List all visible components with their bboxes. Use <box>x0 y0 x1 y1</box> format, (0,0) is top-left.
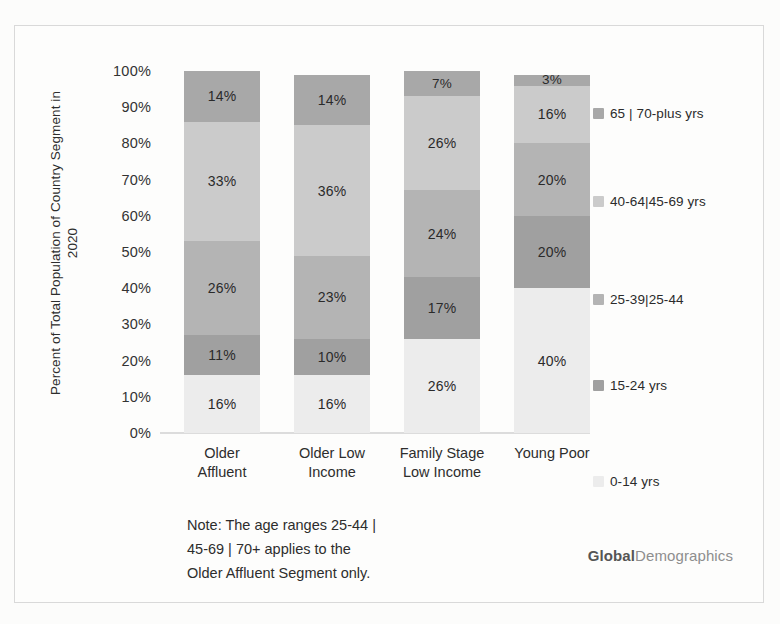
bar-segment-label: 17% <box>428 301 457 315</box>
legend-item[interactable]: 25-39|25-44 <box>593 292 684 307</box>
chart-frame: Percent of Total Population of Country S… <box>14 25 764 603</box>
legend-item[interactable]: 15-24 yrs <box>593 378 667 393</box>
legend-label: 25-39|25-44 <box>610 292 684 307</box>
bar-segment[interactable]: 17% <box>404 277 480 339</box>
bar-column[interactable]: 16%10%23%36%14% <box>294 71 370 433</box>
chart-canvas: Percent of Total Population of Country S… <box>0 0 780 624</box>
x-category-label-line: Low Income <box>389 463 495 482</box>
bar-segment-label: 20% <box>538 245 567 259</box>
bar-segment-label: 23% <box>318 290 347 304</box>
x-category-label: Young Poor <box>499 444 605 463</box>
note-line-1: Note: The age ranges 25-44 | <box>187 513 447 537</box>
brand-logo: GlobalDemographics <box>588 547 733 564</box>
y-tick-label: 100% <box>93 63 151 79</box>
bar-segment-label: 11% <box>208 348 236 362</box>
y-tick-label: 20% <box>93 353 151 369</box>
bar-segment[interactable]: 7% <box>404 71 480 96</box>
bar-segment-label: 26% <box>428 379 457 393</box>
bar-segment[interactable]: 14% <box>184 71 260 122</box>
legend-label: 65 | 70-plus yrs <box>610 106 704 121</box>
x-category-label-line: Older Low <box>279 444 385 463</box>
bar-segment[interactable]: 16% <box>514 86 590 144</box>
bar-segment[interactable]: 36% <box>294 125 370 255</box>
legend-swatch-icon <box>593 294 604 305</box>
note-line-2: 45-69 | 70+ applies to the <box>187 537 447 561</box>
y-tick-label: 50% <box>93 244 151 260</box>
bar-segment[interactable]: 20% <box>514 143 590 215</box>
legend-item[interactable]: 65 | 70-plus yrs <box>593 106 704 121</box>
legend-swatch-icon <box>593 380 604 391</box>
bar-segment-label: 26% <box>428 136 457 150</box>
bar-segment-label: 16% <box>318 397 347 411</box>
x-category-label: Older LowIncome <box>279 444 385 482</box>
y-axis-title: Percent of Total Population of Country S… <box>47 78 81 408</box>
legend-label: 0-14 yrs <box>610 474 660 489</box>
bar-segment[interactable]: 26% <box>184 241 260 335</box>
y-tick-label: 60% <box>93 208 151 224</box>
y-tick-label: 40% <box>93 280 151 296</box>
bar-segment[interactable]: 10% <box>294 339 370 375</box>
bar-segment[interactable]: 16% <box>294 375 370 433</box>
bar-segment-label: 3% <box>542 73 562 87</box>
bar-segment-label: 33% <box>208 174 237 188</box>
note-line-3: Older Affluent Segment only. <box>187 561 447 585</box>
bar-segment-label: 16% <box>538 107 567 121</box>
plot-area: 16%11%26%33%14%16%10%23%36%14%26%17%24%2… <box>160 71 586 433</box>
legend-swatch-icon <box>593 476 604 487</box>
bar-segment[interactable]: 14% <box>294 75 370 126</box>
y-tick-label: 0% <box>93 425 151 441</box>
legend-label: 15-24 yrs <box>610 378 667 393</box>
bar-segment-label: 10% <box>318 350 347 364</box>
y-tick-label: 10% <box>93 389 151 405</box>
bar-segment[interactable]: 24% <box>404 190 480 277</box>
x-category-label: Family StageLow Income <box>389 444 495 482</box>
y-tick-label: 90% <box>93 99 151 115</box>
legend-swatch-icon <box>593 108 604 119</box>
bar-segment[interactable]: 3% <box>514 75 590 86</box>
bar-segment-label: 24% <box>428 227 457 241</box>
chart-note: Note: The age ranges 25-44 | 45-69 | 70+… <box>187 513 447 585</box>
bar-segment-label: 36% <box>318 184 347 198</box>
bar-segment[interactable]: 16% <box>184 375 260 433</box>
bar-segment-label: 20% <box>538 173 567 187</box>
legend-item[interactable]: 0-14 yrs <box>593 474 660 489</box>
bar-segment[interactable]: 33% <box>184 122 260 241</box>
x-category-label-line: Older <box>169 444 275 463</box>
brand-name-primary: Global <box>588 547 635 564</box>
bar-segment[interactable]: 26% <box>404 339 480 433</box>
y-tick-label: 70% <box>93 172 151 188</box>
legend-swatch-icon <box>593 196 604 207</box>
x-category-label-line: Young Poor <box>499 444 605 463</box>
x-category-label-line: Affluent <box>169 463 275 482</box>
y-axis-tick-labels: 0%10%20%30%40%50%60%70%80%90%100% <box>93 64 151 442</box>
brand-name-secondary: Demographics <box>635 547 733 564</box>
y-tick-label: 80% <box>93 135 151 151</box>
x-category-label: OlderAffluent <box>169 444 275 482</box>
legend-item[interactable]: 40-64|45-69 yrs <box>593 194 706 209</box>
bar-segment-label: 14% <box>208 89 237 103</box>
bar-segment-label: 7% <box>432 77 452 91</box>
x-category-label-line: Family Stage <box>389 444 495 463</box>
bar-segment[interactable]: 26% <box>404 96 480 190</box>
bar-column[interactable]: 40%20%20%16%3% <box>514 71 590 433</box>
legend-label: 40-64|45-69 yrs <box>610 194 706 209</box>
bar-segment-label: 26% <box>208 281 237 295</box>
y-tick-label: 30% <box>93 316 151 332</box>
bar-segment-label: 16% <box>208 397 237 411</box>
x-category-label-line: Income <box>279 463 385 482</box>
bar-segment-label: 14% <box>318 93 347 107</box>
bar-column[interactable]: 26%17%24%26%7% <box>404 71 480 433</box>
bar-segment[interactable]: 23% <box>294 256 370 339</box>
bar-column[interactable]: 16%11%26%33%14% <box>184 71 260 433</box>
x-axis-category-labels: OlderAffluentOlder LowIncomeFamily Stage… <box>160 444 590 500</box>
bar-segment[interactable]: 40% <box>514 288 590 433</box>
bar-segment-label: 40% <box>538 354 567 368</box>
bar-segment[interactable]: 20% <box>514 216 590 288</box>
bar-segment[interactable]: 11% <box>184 335 260 375</box>
